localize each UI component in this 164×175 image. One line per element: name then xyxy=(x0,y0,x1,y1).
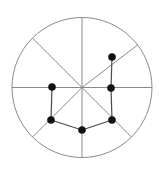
node-lower-right[interactable] xyxy=(108,116,115,123)
diagram-canvas xyxy=(0,0,164,175)
node-left[interactable] xyxy=(48,83,55,90)
spoke-southeast xyxy=(82,88,132,138)
edge-right-to-lower-right xyxy=(111,88,112,120)
node-upper-right[interactable] xyxy=(108,53,115,60)
edge-lower-left-to-left xyxy=(51,87,52,120)
node-bottom-center[interactable] xyxy=(78,126,85,133)
node-right[interactable] xyxy=(107,84,114,91)
network-diagram xyxy=(0,0,164,175)
spoke-northeast xyxy=(82,45,138,88)
spoke-layer xyxy=(12,18,152,158)
edge-upper-right-to-right xyxy=(111,57,112,88)
spoke-northwest xyxy=(33,38,83,88)
edge-lower-right-to-bottom-center xyxy=(82,120,112,130)
spoke-southwest xyxy=(33,88,83,138)
node-lower-left[interactable] xyxy=(47,116,54,123)
edge-bottom-center-to-lower-left xyxy=(51,120,82,130)
